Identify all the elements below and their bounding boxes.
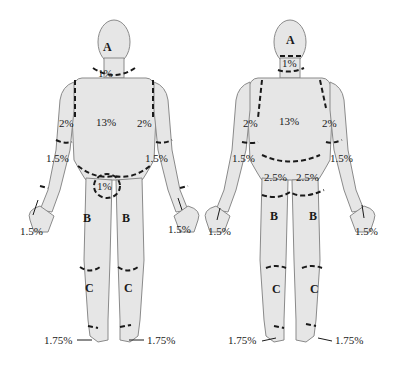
posterior-thigh-left-label: B: [270, 210, 278, 222]
posterior-foot-left-label: 1.75%: [228, 335, 256, 346]
anterior-thigh-right-label: B: [122, 212, 130, 224]
posterior-thigh-right-label: B: [309, 210, 317, 222]
posterior-leg-left-label: C: [272, 283, 281, 295]
anterior-hand-right-label: 1.5%: [168, 224, 191, 235]
posterior-neck-label: 1%: [282, 58, 297, 69]
anterior-trunk-label: 13%: [96, 117, 116, 128]
posterior-trunk-label: 13%: [279, 116, 299, 127]
posterior-leg-right-label: C: [310, 283, 319, 295]
anterior-forearm-left-label: 1.5%: [46, 153, 69, 164]
anterior-neck-label: 1%: [98, 68, 113, 79]
anterior-hand-left-label: 1.5%: [20, 226, 43, 237]
posterior-upper-arm-left-label: 2%: [243, 118, 258, 129]
anterior-upper-arm-right-label: 2%: [137, 118, 152, 129]
posterior-forearm-left-label: 1.5%: [232, 153, 255, 164]
anterior-genitals-label: 1%: [97, 181, 112, 192]
posterior-foot-right-label: 1.75%: [335, 335, 363, 346]
anterior-foot-left-label: 1.75%: [44, 335, 72, 346]
anterior-forearm-right-label: 1.5%: [145, 153, 168, 164]
posterior-head-label: A: [286, 34, 295, 46]
body-diagram: [0, 0, 396, 377]
anterior-figure: [29, 20, 199, 342]
anterior-leg-right-label: C: [124, 282, 133, 294]
anterior-thigh-left-label: B: [83, 212, 91, 224]
posterior-buttock-right-label: 2.5%: [296, 172, 319, 183]
posterior-buttock-left-label: 2.5%: [264, 172, 287, 183]
posterior-hand-right-label: 1.5%: [355, 226, 378, 237]
posterior-upper-arm-right-label: 2%: [322, 118, 337, 129]
anterior-leg-left-label: C: [85, 282, 94, 294]
posterior-hand-left-label: 1.5%: [208, 226, 231, 237]
anterior-upper-arm-left-label: 2%: [59, 118, 74, 129]
anterior-foot-right-label: 1.75%: [147, 335, 175, 346]
posterior-forearm-right-label: 1.5%: [330, 153, 353, 164]
anterior-head-label: A: [103, 41, 112, 53]
